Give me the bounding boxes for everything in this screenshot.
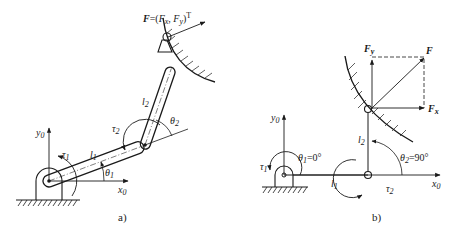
l1-label-b: l1 (331, 178, 338, 191)
f-label-b: F (425, 45, 433, 56)
theta2-label-b: θ2=90° (400, 152, 429, 165)
ground-hatch-b (262, 187, 308, 193)
theta2-label-a: θ2 (170, 115, 179, 128)
f-arrow-b (372, 58, 424, 108)
contact-surface-b (345, 56, 413, 142)
tau2-arc-b (333, 160, 362, 198)
tau2-label-a: τ2 (112, 123, 120, 136)
theta1-arc-a (101, 162, 104, 181)
fy-label-b: Fy (363, 43, 375, 56)
panel-b: Fy F Fx y0 x0 θ1=0° τ1 l1 l2 θ2=90° τ2 b… (260, 43, 440, 224)
tau1-label-a: τ1 (62, 149, 70, 162)
ground-hatch-a (16, 200, 80, 206)
l2-label-a: l2 (142, 96, 149, 109)
y0-label-b: y0 (270, 112, 279, 125)
tau1-label-b: τ1 (260, 161, 268, 174)
two-link-manipulator-figure: F=(Fx, Fy)T y0 x0 τ1 l1 θ1 τ2 l2 θ2 a) (0, 0, 458, 235)
panel-a: F=(Fx, Fy)T y0 x0 τ1 l1 θ1 τ2 l2 θ2 a) (16, 11, 215, 224)
l1-label-a: l1 (90, 149, 97, 162)
x0-label-a: x0 (117, 184, 126, 197)
caption-b: b) (372, 211, 382, 224)
y0-label-a: y0 (35, 127, 44, 140)
force-label-a: F=(Fx, Fy)T (142, 11, 191, 26)
caption-a: a) (118, 211, 127, 224)
theta1-label-a: θ1 (105, 167, 114, 180)
fx-label-b: Fx (427, 103, 439, 116)
l2-label-b: l2 (358, 134, 365, 147)
surface-hatch-b (348, 63, 406, 136)
force-arrow-a (168, 22, 205, 37)
tau2-label-b: τ2 (386, 183, 394, 196)
x0-label-b: x0 (431, 178, 440, 191)
theta2-arc-b (372, 141, 402, 175)
end-effector-a (158, 40, 172, 52)
